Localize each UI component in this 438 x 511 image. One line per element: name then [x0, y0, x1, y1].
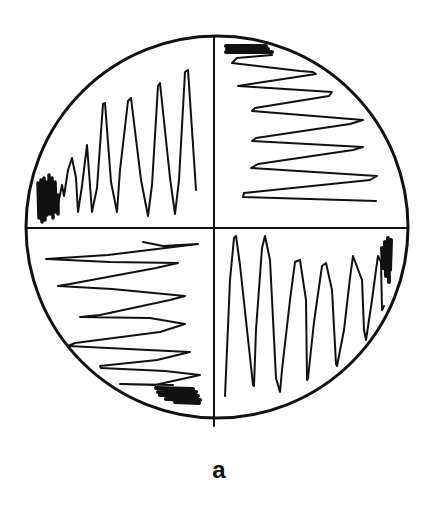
- quadrant-bottom-left-trace: [46, 242, 200, 385]
- quadrant-top-right-scribble: [226, 46, 272, 52]
- quadrant-bottom-right-scribble: [382, 238, 391, 282]
- quadrant-bottom-left-scribble: [156, 388, 200, 403]
- quadrant-zigzag-diagram: [0, 0, 438, 511]
- quadrant-top-left-trace: [58, 70, 196, 216]
- quadrant-top-right-trace: [232, 55, 377, 201]
- quadrant-top-left-scribble: [38, 175, 58, 222]
- quadrant-bottom-right-trace: [225, 236, 384, 396]
- figure-caption: a: [0, 456, 438, 484]
